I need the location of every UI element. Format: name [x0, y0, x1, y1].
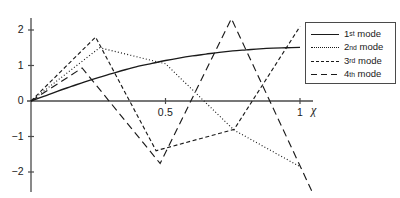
- y-tick-label-0: 0: [0, 94, 24, 106]
- legend-item-3rd-mode: 3rd mode: [310, 54, 391, 68]
- legend-label-4th-mode: 4th mode: [344, 69, 381, 79]
- legend-line-sample-solid-icon: [310, 29, 340, 39]
- series-line-3rd-mode: [31, 26, 300, 150]
- legend-label-1st-mode: 1st mode: [344, 29, 381, 39]
- legend-item-1st-mode: 1st mode: [310, 27, 391, 41]
- legend-line-sample-longdash-icon: [310, 69, 340, 79]
- y-tick-label-2: 2: [0, 23, 24, 35]
- legend-line-sample-dotted-icon: [310, 42, 340, 52]
- legend: 1st mode 2nd mode 3rd mode 4th mode: [305, 22, 396, 84]
- legend-label-3rd-mode: 3rd mode: [344, 56, 382, 66]
- axes-layer: [27, 18, 313, 192]
- chart-container: 2 1 0 −1 −2 0.5 1 χ 1st mode 2nd mode 3r…: [0, 0, 400, 198]
- legend-label-2nd-mode: 2nd mode: [344, 42, 383, 52]
- legend-item-4th-mode: 4th mode: [310, 68, 391, 82]
- legend-item-2nd-mode: 2nd mode: [310, 41, 391, 55]
- x-axis-label: χ: [311, 103, 316, 118]
- series-line-1st-mode: [31, 47, 300, 101]
- x-tick-label-one: 1: [292, 106, 308, 118]
- legend-line-sample-dashed-icon: [310, 56, 340, 66]
- y-tick-label-minus2: −2: [0, 165, 24, 177]
- y-tick-label-1: 1: [0, 59, 24, 71]
- x-tick-label-half: 0.5: [151, 106, 181, 118]
- y-tick-label-minus1: −1: [0, 130, 24, 142]
